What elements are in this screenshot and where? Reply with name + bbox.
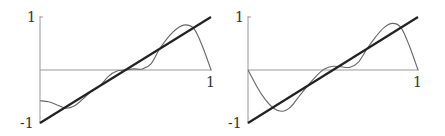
approximation-curve [40, 25, 211, 108]
y-tick-label-top: 1 [27, 9, 36, 25]
x-tick-label-right: 1 [206, 74, 215, 90]
chart-canvas: 1 -1 1 1 -1 1 [0, 0, 445, 136]
y-tick-label-bottom: -1 [228, 115, 242, 131]
approximation-curve [248, 23, 418, 111]
y-tick-label-bottom: -1 [20, 115, 34, 131]
right-plot: 1 -1 1 [228, 9, 422, 131]
x-tick-label-right: 1 [413, 74, 422, 90]
left-plot: 1 -1 1 [20, 9, 215, 131]
y-tick-label-top: 1 [235, 9, 244, 25]
